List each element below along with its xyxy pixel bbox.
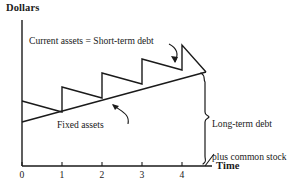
long-term-debt-brace [201,73,209,164]
x-tick-label-0: 0 [15,170,29,181]
annotation-long-term-debt-line2: plus common stock [212,152,287,163]
x-tick-label-1: 1 [55,170,69,181]
annotation-fixed-assets: Fixed assets [57,120,104,131]
annotation-long-term-debt: Long-term debt plus common stock [212,98,287,184]
capital-structure-diagram: Dollars Time Current assets = Short-term… [0,0,305,193]
x-tick-label-4: 4 [175,170,189,181]
x-tick-label-3: 3 [135,170,149,181]
current-assets-sawtooth [22,45,206,112]
y-axis-title: Dollars [6,2,39,14]
fixed-assets-line [22,72,206,122]
annotation-current-assets: Current assets = Short-term debt [29,36,154,47]
annotation-long-term-debt-line1: Long-term debt [212,119,287,130]
x-tick-label-2: 2 [95,170,109,181]
current-assets-leader-arrowhead [171,56,178,63]
